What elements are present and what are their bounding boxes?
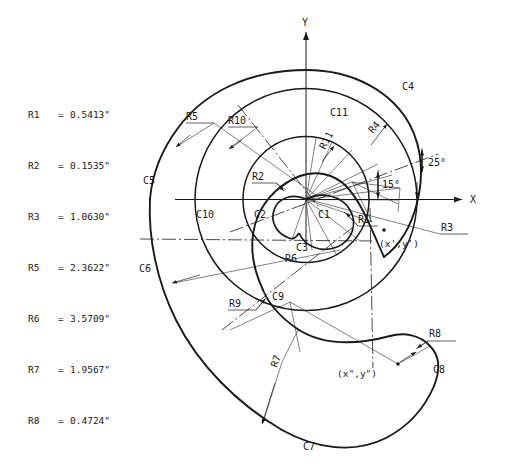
curve-label-c6: C6: [139, 263, 151, 274]
leader-arrow-r8-inner: [400, 352, 416, 362]
cam-profile-svg: X Y: [0, 0, 508, 468]
curve-label-c4: C4: [402, 81, 414, 92]
angle-dimension-group: [378, 148, 422, 199]
centerline-group: [140, 105, 438, 368]
radius-label-r10: R10: [228, 115, 246, 126]
centerline-25deg: [230, 154, 438, 232]
radial-line: [306, 175, 392, 200]
curve-label-c8: C8: [433, 364, 445, 375]
leader-arrow-r10: [229, 140, 242, 149]
leader-seg-r5: [176, 123, 214, 147]
radius-label-r8: R8: [429, 328, 441, 339]
centerline-diag-lower: [222, 228, 352, 330]
y-axis-label: Y: [302, 17, 308, 28]
angle-label-15: 15°: [382, 179, 400, 190]
leader-arrow-r7: [262, 383, 275, 424]
curve-label-c10: C10: [196, 209, 214, 220]
radius-label-r5: R5: [186, 111, 198, 122]
leader-line-r5: [214, 123, 317, 196]
curve-label-c9: C9: [272, 291, 284, 302]
curve-label-c3: C3: [296, 242, 308, 253]
radial-construction-group: [292, 138, 400, 254]
curve-c6: [150, 199, 282, 430]
hub-group: [273, 195, 354, 249]
r8-radius-line: [398, 346, 430, 364]
radius-label-r1: R1: [358, 214, 370, 225]
leader-arrow-r5: [176, 135, 190, 147]
angle-label-25: 25°: [428, 157, 446, 168]
curve-c8: [390, 334, 438, 386]
curve-label-c5: C5: [143, 175, 155, 186]
radius-label-r2: R2: [252, 171, 264, 182]
curve-c2: [273, 196, 306, 238]
radius-label-r6: R6: [285, 253, 297, 264]
curve-c9: [252, 216, 263, 290]
curve-label-c11: C11: [330, 107, 348, 118]
leader-line-r7: [282, 330, 298, 362]
curve-label-c1: C1: [318, 209, 330, 220]
leader-arrow-r6: [172, 275, 200, 283]
curve-label-c2: C2: [254, 209, 266, 220]
point-label-prime: (x',y'): [379, 238, 419, 249]
radius-label-r9: R9: [229, 298, 241, 309]
curve-c5: [150, 70, 306, 199]
curve-label-c7: C7: [303, 441, 315, 452]
x-axis-label: X: [470, 194, 476, 205]
centerline-c10: [140, 239, 372, 241]
curve-c4: [306, 70, 410, 125]
drawing-canvas: R1=0.5413" R2=0.1535" R3=1.0630" R5=2.36…: [0, 0, 508, 468]
radius-label-r3: R3: [441, 222, 453, 233]
point-prime-dot: [382, 228, 386, 232]
leader-seg-r7: [263, 362, 282, 423]
point-label-double-prime: (x",y"): [337, 368, 377, 379]
curve-c7: [282, 386, 434, 448]
leader-arrow-r8: [417, 341, 428, 348]
